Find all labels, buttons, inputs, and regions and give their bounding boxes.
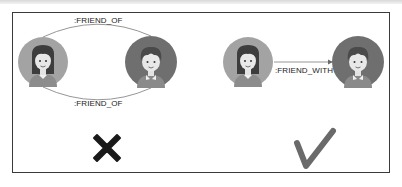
- friend-of-edge-top: [43, 24, 151, 37]
- boy-avatar: [125, 36, 177, 88]
- girl-avatar: [223, 37, 273, 87]
- right-panel: [223, 36, 384, 166]
- diagram-canvas: [0, 0, 402, 187]
- check-icon: [297, 131, 333, 166]
- friend-with-label: :FRIEND_WITH: [275, 66, 333, 75]
- boy-avatar: [332, 36, 384, 88]
- cross-icon: [94, 135, 120, 161]
- friend-of-edge-bottom: [43, 87, 151, 100]
- girl-avatar: [18, 37, 68, 87]
- left-panel: [18, 24, 177, 161]
- friend-of-bottom-label: :FRIEND_OF: [74, 99, 123, 108]
- friend-of-top-label: :FRIEND_OF: [74, 16, 123, 25]
